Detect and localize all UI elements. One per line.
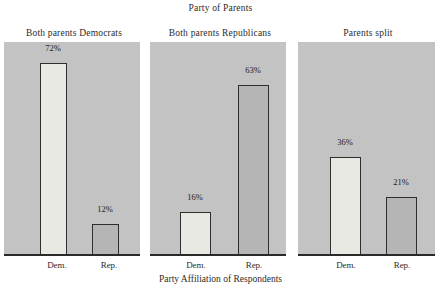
bar-rep[interactable] xyxy=(238,85,269,256)
category-label-dem: Dem. xyxy=(47,260,67,270)
caption-remnant: · xyxy=(0,0,441,1)
panel-both-parents-democrats: Both parents Democrats 72% 12% Dem. Rep. xyxy=(4,28,144,260)
bar-value-rep: 21% xyxy=(393,177,409,187)
panel-parents-split: Parents split 36% 21% Dem. Rep. xyxy=(298,28,438,260)
category-label-rep: Rep. xyxy=(246,260,263,270)
panel-title: Parents split xyxy=(298,28,438,38)
bar-value-dem: 72% xyxy=(45,43,61,53)
bar-dem[interactable] xyxy=(180,212,211,256)
bar-rep[interactable] xyxy=(92,224,119,256)
bar-dem[interactable] xyxy=(330,157,361,256)
figure-bar-chart-party-of-parents: · Party of Parents Both parents Democrat… xyxy=(0,0,441,293)
bar-value-rep: 12% xyxy=(97,204,113,214)
bar-value-dem: 36% xyxy=(337,137,353,147)
panel-both-parents-republicans: Both parents Republicans 16% 63% Dem. Re… xyxy=(150,28,290,260)
category-label-dem: Dem. xyxy=(186,260,206,270)
axis-baseline xyxy=(150,254,286,257)
panel-title: Both parents Republicans xyxy=(150,28,290,38)
category-label-rep: Rep. xyxy=(101,260,118,270)
category-label-dem: Dem. xyxy=(336,260,356,270)
plot-area: 36% 21% xyxy=(298,42,435,256)
plot-area: 16% 63% xyxy=(150,42,286,256)
panel-title: Both parents Democrats xyxy=(4,28,144,38)
bar-value-rep: 63% xyxy=(245,65,261,75)
plot-area: 72% 12% xyxy=(4,42,140,256)
bar-rep[interactable] xyxy=(386,197,417,256)
axis-baseline xyxy=(298,254,435,257)
bar-dem[interactable] xyxy=(40,63,67,256)
bar-value-dem: 16% xyxy=(187,192,203,202)
x-axis-title: Party Affiliation of Respondents xyxy=(0,274,441,284)
figure-top-title: Party of Parents xyxy=(0,3,441,13)
category-label-rep: Rep. xyxy=(394,260,411,270)
axis-baseline xyxy=(4,254,140,257)
